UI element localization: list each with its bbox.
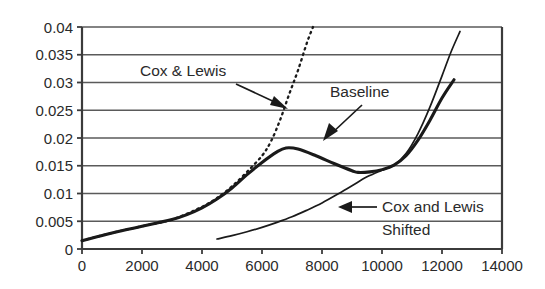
- chart-container: 00.0050.010.0150.020.0250.030.0350.04 02…: [0, 0, 545, 289]
- y-axis-tick-label: 0.03: [44, 74, 73, 91]
- x-axis-tick-label: 14000: [481, 257, 523, 274]
- annotation-cox-lewis-shifted: Cox and Lewis Shifted: [338, 198, 484, 238]
- line-chart: 00.0050.010.0150.020.0250.030.0350.04 02…: [0, 0, 545, 289]
- x-axis-tick-label: 12000: [421, 257, 463, 274]
- y-axis-tick-label: 0: [65, 241, 73, 258]
- x-axis-tick-label: 0: [78, 257, 86, 274]
- x-axis-tick-label: 8000: [305, 257, 338, 274]
- annotation-label-shifted-line1: Cox and Lewis: [382, 198, 484, 215]
- annotation-baseline: Baseline: [323, 83, 389, 141]
- annotation-label-cox-lewis: Cox & Lewis: [140, 62, 226, 79]
- x-axis-tick-label: 4000: [185, 257, 218, 274]
- x-axis-tick-label: 10000: [361, 257, 403, 274]
- y-axis-tick-label: 0.01: [44, 185, 73, 202]
- y-axis-tick-label: 0.025: [35, 102, 73, 119]
- gridlines: [82, 27, 502, 221]
- y-axis-tick-label: 0.04: [44, 19, 73, 36]
- series-baseline: [82, 80, 454, 241]
- y-axis-tick-label: 0.035: [35, 46, 73, 63]
- y-axis-labels: 00.0050.010.0150.020.0250.030.0350.04: [35, 19, 73, 258]
- annotation-label-baseline: Baseline: [330, 83, 389, 100]
- y-axis-tick-label: 0.02: [44, 130, 73, 147]
- x-axis-labels: 02000400060008000100001200014000: [78, 257, 523, 274]
- y-axis-tick-label: 0.015: [35, 157, 73, 174]
- x-axis-tick-label: 6000: [245, 257, 278, 274]
- y-axis-tick-label: 0.005: [35, 213, 73, 230]
- annotation-label-shifted-line2: Shifted: [382, 221, 430, 238]
- x-axis-tick-label: 2000: [125, 257, 158, 274]
- annotation-cox-lewis: Cox & Lewis: [140, 62, 288, 109]
- annotation-arrow-head-shifted: [338, 201, 352, 213]
